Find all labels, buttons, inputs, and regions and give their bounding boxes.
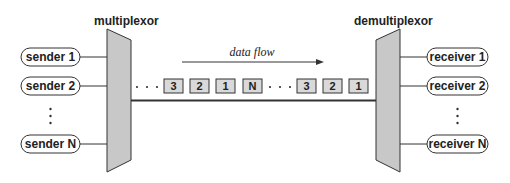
demultiplexor-label: demultiplexor [354, 14, 433, 28]
packet-label: N [249, 80, 257, 92]
packet-ellipsis-middle [269, 86, 291, 88]
demultiplexor-shape [376, 29, 400, 172]
multiplexor-shape [107, 29, 131, 172]
packet-label: 1 [355, 80, 361, 92]
packet-label: 2 [329, 80, 335, 92]
packet: 2 [323, 79, 342, 93]
packet: 1 [216, 79, 235, 93]
sender-1: sender 1 [21, 48, 80, 66]
packet-ellipsis-left [136, 86, 158, 88]
receiver-n-label: receiver N [428, 137, 486, 151]
sender-2-label: sender 2 [26, 79, 76, 93]
sender-ellipsis [49, 108, 51, 124]
receiver-n: receiver N [427, 135, 488, 153]
sender-n: sender N [21, 135, 80, 153]
multiplexor-label: multiplexor [94, 14, 159, 28]
packet-label: 3 [303, 80, 309, 92]
packet: 3 [297, 79, 316, 93]
packet: 1 [349, 79, 368, 93]
sender-1-label: sender 1 [26, 50, 76, 64]
packet-label: 1 [222, 80, 228, 92]
receiver-ellipsis [456, 108, 458, 124]
receiver-1-label: receiver 1 [429, 50, 485, 64]
receiver-1: receiver 1 [427, 48, 488, 66]
data-flow-label: data flow [229, 45, 274, 59]
arrow-right-icon [316, 59, 324, 65]
sender-2: sender 2 [21, 77, 80, 95]
packet: N [243, 79, 262, 93]
sender-n-label: sender N [25, 137, 76, 151]
mux-demux-diagram: multiplexor demultiplexor sender 1 sende… [0, 0, 510, 183]
packet: 2 [190, 79, 209, 93]
packet: 3 [164, 79, 183, 93]
packet-label: 2 [196, 80, 202, 92]
receiver-2-label: receiver 2 [429, 79, 485, 93]
packet-label: 3 [170, 80, 176, 92]
receiver-2: receiver 2 [427, 77, 488, 95]
